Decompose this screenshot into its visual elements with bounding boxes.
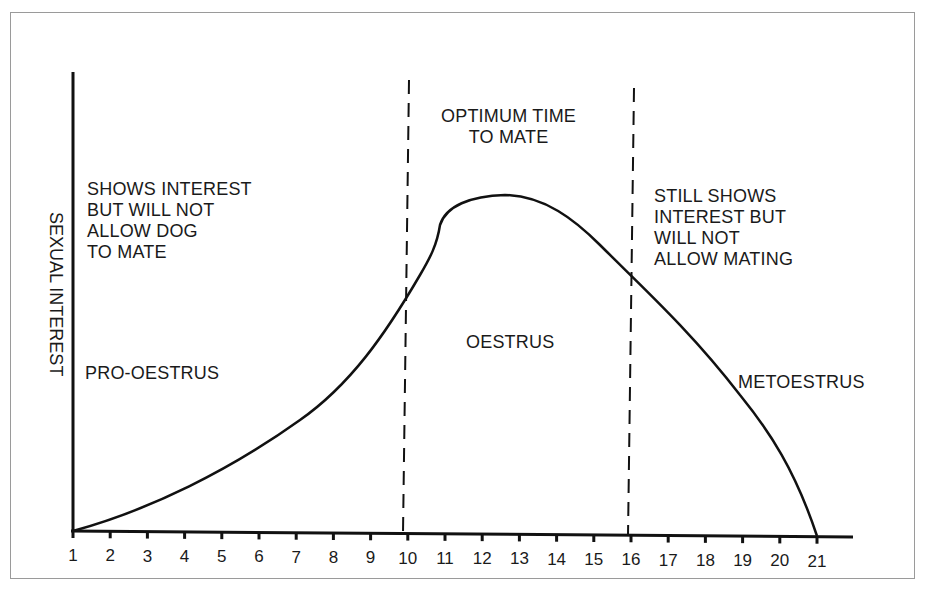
x-tick-label: 21	[808, 552, 827, 571]
metoestrus-label: METOESTRUS	[738, 372, 865, 393]
x-tick-label: 18	[696, 551, 715, 570]
x-tick-label: 6	[254, 547, 263, 566]
chart-canvas: 123456789101112131415161718192021	[0, 0, 925, 593]
x-tick-label: 13	[510, 549, 529, 568]
divider-day-16	[628, 88, 634, 536]
x-tick-label: 16	[622, 550, 641, 569]
x-tick-label: 15	[584, 550, 603, 569]
pro-oestrus-label: PRO-OESTRUS	[85, 363, 219, 384]
y-axis-label: SEXUAL INTEREST	[45, 212, 66, 376]
x-tick-label: 9	[366, 548, 375, 567]
x-tick-label: 20	[770, 551, 789, 570]
x-tick-label: 4	[180, 547, 189, 566]
x-tick-label: 12	[473, 549, 492, 568]
oestrus-label: OESTRUS	[466, 332, 554, 353]
x-axis	[71, 531, 853, 537]
x-tick-label: 19	[733, 551, 752, 570]
x-tick-label: 8	[329, 548, 338, 567]
x-tick-label: 5	[217, 547, 226, 566]
divider-day-10	[403, 80, 409, 533]
x-tick-label: 10	[398, 549, 417, 568]
x-tick-label: 1	[68, 546, 77, 565]
x-tick-label: 11	[436, 549, 454, 568]
x-tick-label: 3	[143, 547, 152, 566]
x-tick-label: 7	[291, 548, 300, 567]
x-tick-label: 14	[547, 550, 566, 569]
x-tick-label: 2	[105, 546, 114, 565]
metoestrus-note: STILL SHOWS INTEREST BUT WILL NOT ALLOW …	[654, 186, 793, 270]
optimum-time-label: OPTIMUM TIME TO MATE	[441, 106, 576, 148]
x-tick-label: 17	[659, 551, 678, 570]
pro-oestrus-note: SHOWS INTEREST BUT WILL NOT ALLOW DOG TO…	[87, 179, 252, 263]
